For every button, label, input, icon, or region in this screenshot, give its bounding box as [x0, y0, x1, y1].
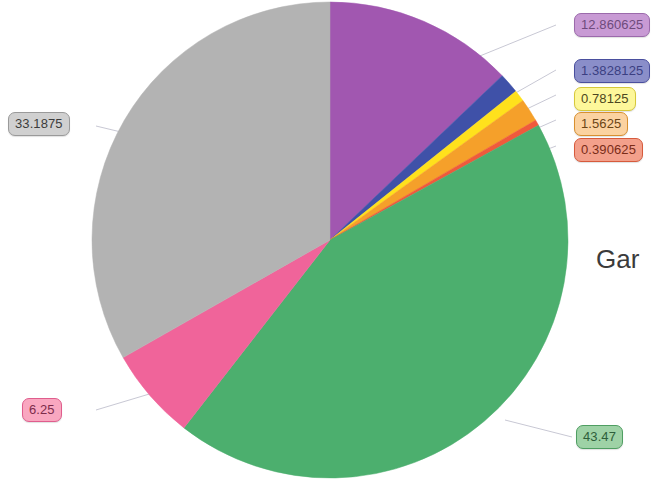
legend-title: Gar [596, 246, 639, 272]
callout-orange[interactable]: 1.5625 [574, 112, 628, 136]
pie-chart [0, 0, 653, 491]
callout-red[interactable]: 0.390625 [574, 138, 643, 162]
callout-purple[interactable]: 12.860625 [574, 13, 650, 37]
callout-gray[interactable]: 33.1875 [8, 112, 70, 136]
callout-blue[interactable]: 1.3828125 [574, 59, 650, 83]
leader-line-5 [505, 420, 572, 437]
pie-slices [92, 2, 568, 478]
callout-green[interactable]: 43.47 [576, 425, 623, 449]
leader-line-0 [470, 25, 556, 60]
callout-pink[interactable]: 6.25 [22, 398, 62, 422]
callout-yellow[interactable]: 0.78125 [574, 87, 636, 111]
chart-canvas: 12.860625 1.3828125 0.78125 1.5625 0.390… [0, 0, 653, 491]
